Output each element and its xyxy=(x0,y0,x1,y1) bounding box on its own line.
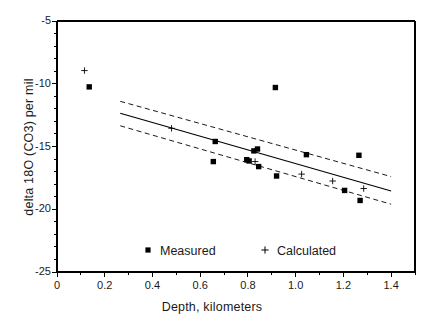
measured-point xyxy=(255,146,260,151)
measured-point xyxy=(304,152,309,157)
calculated-point xyxy=(81,67,87,73)
y-axis-label: delta 18O (CO3) per mil xyxy=(22,32,36,262)
plot-canvas xyxy=(0,0,424,328)
legend-marker-calculated xyxy=(261,246,268,253)
x-tick-label: 0.4 xyxy=(132,280,172,291)
y-tick-label: -5 xyxy=(24,15,51,26)
x-tick-label: 0.2 xyxy=(85,280,125,291)
x-tick-label: 1.2 xyxy=(323,280,363,291)
x-tick-label: 1.0 xyxy=(276,280,316,291)
calculated-points xyxy=(81,67,367,191)
measured-point xyxy=(274,173,279,178)
x-tick-label: 0 xyxy=(37,280,77,291)
measured-point xyxy=(211,159,216,164)
x-axis-label: Depth, kilometers xyxy=(0,300,424,314)
measured-point xyxy=(357,198,362,203)
scatter-plot-figure: -5-10-15-20-2500.20.40.60.81.01.21.4 Dep… xyxy=(0,0,424,328)
measured-point xyxy=(256,164,261,169)
measured-point xyxy=(356,153,361,158)
x-tick-label: 1.4 xyxy=(371,280,411,291)
measured-point xyxy=(246,158,251,163)
measured-point xyxy=(273,85,278,90)
legend-marker-measured xyxy=(145,247,150,252)
legend-label-measured: Measured xyxy=(160,244,216,258)
calculated-point xyxy=(360,185,366,191)
x-tick-label: 0.8 xyxy=(228,280,268,291)
calculated-point xyxy=(298,171,304,177)
y-tick-label: -25 xyxy=(24,266,51,277)
calculated-point xyxy=(329,178,335,184)
axis-ticks xyxy=(52,21,415,277)
measured-point xyxy=(213,139,218,144)
x-tick-label: 0.6 xyxy=(180,280,220,291)
calculated-point xyxy=(168,125,174,131)
measured-point xyxy=(87,84,92,89)
measured-point xyxy=(342,188,347,193)
legend-label-calculated: Calculated xyxy=(277,244,336,258)
